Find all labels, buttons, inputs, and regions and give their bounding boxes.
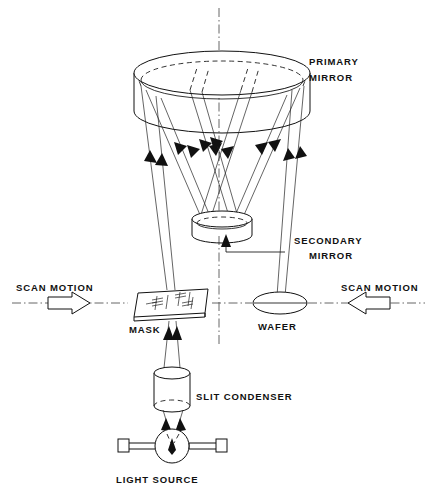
wafer [253,292,307,314]
ray-bundle-inner-crossing [190,90,252,226]
diagram-canvas: PRIMARY MIRROR SECONDARY MIRROR SCAN MOT… [0,0,433,494]
optical-system-diagram: PRIMARY MIRROR SECONDARY MIRROR SCAN MOT… [0,0,433,494]
scan-arrow-left [48,292,90,314]
secondary-mirror-label-line2: MIRROR [309,250,353,261]
ray-bundle-condenser-to-mask [163,321,182,368]
scan-motion-right-label: SCAN MOTION [341,282,418,293]
secondary-mirror-label-line1: SECONDARY [294,235,362,246]
slit-condenser [154,367,190,412]
primary-mirror-label-line2: MIRROR [309,72,353,83]
mask [134,289,208,321]
primary-mirror [134,51,310,133]
scan-motion-left-label: SCAN MOTION [16,282,93,293]
wafer-label: WAFER [258,321,297,332]
ray-bundle-primary-to-wafer [277,86,307,296]
slit-condenser-label: SLIT CONDENSER [196,391,293,402]
secondary-mirror [192,211,252,243]
light-source-label: LIGHT SOURCE [116,474,199,485]
light-source [118,429,227,463]
ray-bundle-mask-to-primary [141,86,175,290]
mask-label: MASK [129,324,161,335]
primary-mirror-label-line1: PRIMARY [309,56,359,67]
scan-arrow-right [348,292,390,314]
